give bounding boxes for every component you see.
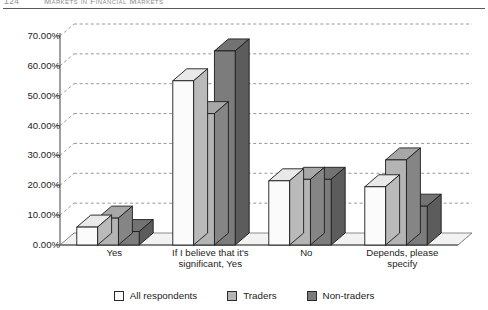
chart-legend: All respondentsTradersNon-traders bbox=[0, 286, 488, 306]
y-tick-label: 0.00% bbox=[8, 240, 60, 250]
x-category-label: No bbox=[255, 247, 357, 258]
legend-swatch-traders bbox=[227, 291, 237, 301]
bars-group bbox=[77, 39, 441, 245]
x-category-label-line1: Yes bbox=[63, 247, 165, 258]
legend-swatch-all-respondents bbox=[114, 291, 124, 301]
legend-item[interactable]: Traders bbox=[227, 291, 276, 301]
x-category-label: If I believe that it'ssignificant, Yes bbox=[159, 247, 261, 270]
bar-4-all-respondents bbox=[365, 175, 400, 245]
running-head-title: Markets in Financial Markets bbox=[44, 0, 163, 6]
x-category-label-line1: If I believe that it's bbox=[159, 247, 261, 258]
legend-item[interactable]: Non-traders bbox=[307, 291, 375, 301]
legend-swatch-non-traders bbox=[307, 291, 317, 301]
legend-label: Non-traders bbox=[323, 291, 375, 301]
y-tick-label: 10.00% bbox=[8, 210, 60, 220]
legend-item[interactable]: All respondents bbox=[114, 291, 198, 301]
y-tick-label: 60.00% bbox=[8, 61, 60, 71]
y-axis-tick-labels: 70.00%60.00%50.00%40.00%30.00%20.00%10.0… bbox=[4, 11, 60, 310]
header-rule bbox=[3, 8, 485, 9]
y-tick-label: 20.00% bbox=[8, 180, 60, 190]
x-category-label: Depends, pleasespecify bbox=[351, 247, 453, 270]
y-tick-label: 30.00% bbox=[8, 150, 60, 160]
y-tick-label: 70.00% bbox=[8, 31, 60, 41]
y-tick-label: 50.00% bbox=[8, 91, 60, 101]
legend-label: All respondents bbox=[130, 291, 198, 301]
legend-label: Traders bbox=[243, 291, 276, 301]
x-axis-category-labels: YesIf I believe that it'ssignificant, Ye… bbox=[60, 247, 480, 281]
x-category-label-line2: specify bbox=[351, 258, 453, 269]
y-tick-label: 40.00% bbox=[8, 121, 60, 131]
page-folio: 124 bbox=[4, 0, 19, 6]
x-category-label: Yes bbox=[63, 247, 165, 258]
bar-2-all-respondents bbox=[173, 69, 208, 245]
bar-chart: 70.00%60.00%50.00%40.00%30.00%20.00%10.0… bbox=[0, 11, 488, 310]
x-category-label-line1: No bbox=[255, 247, 357, 258]
x-category-label-line1: Depends, please bbox=[351, 247, 453, 258]
x-category-label-line2: significant, Yes bbox=[159, 258, 261, 269]
bar-3-all-respondents bbox=[269, 169, 304, 245]
